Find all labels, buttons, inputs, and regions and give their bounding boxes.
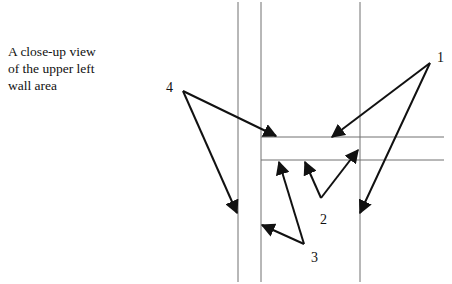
arrow-3b xyxy=(262,225,304,244)
arrow-4b xyxy=(183,91,237,213)
wall-structure-lines xyxy=(238,2,444,282)
wall-diagram: 1 2 3 4 xyxy=(0,0,452,284)
callout-labels: 1 2 3 4 xyxy=(166,50,444,265)
callout-label-2: 2 xyxy=(320,212,327,227)
arrow-4a xyxy=(183,91,276,136)
arrow-3a xyxy=(279,162,304,244)
callout-label-3: 3 xyxy=(311,250,318,265)
callout-arrows xyxy=(183,63,430,244)
arrow-1a xyxy=(332,63,430,137)
arrow-2b xyxy=(321,150,358,198)
callout-label-1: 1 xyxy=(437,50,444,65)
arrow-1b xyxy=(360,63,430,213)
arrow-2a xyxy=(305,162,321,198)
callout-label-4: 4 xyxy=(166,80,173,95)
